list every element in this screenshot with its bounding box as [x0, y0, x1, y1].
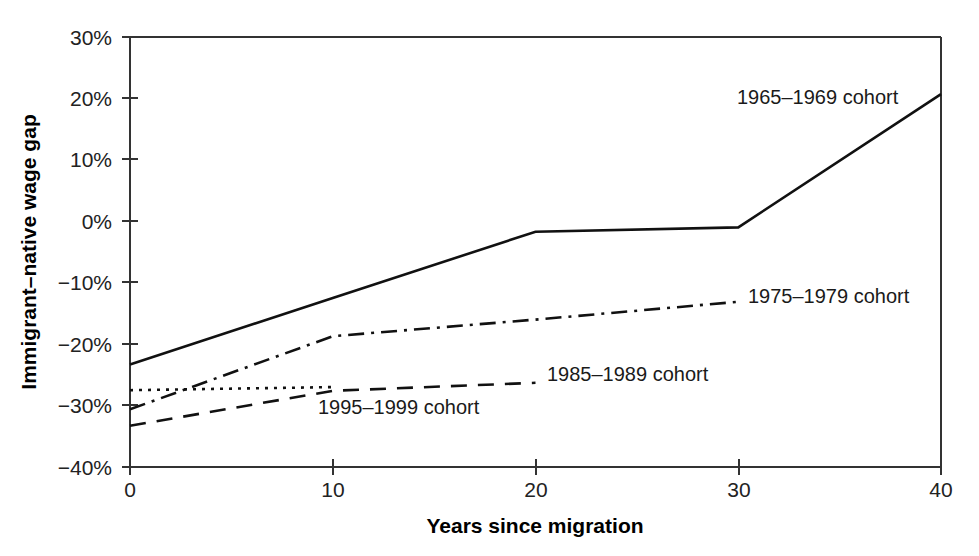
x-tick-label-30: 30 — [727, 478, 750, 501]
y-tick-label-30: 30% — [70, 26, 112, 49]
y-tick-label-10: 10% — [70, 148, 112, 171]
series-group — [130, 94, 941, 426]
series-label-1975-1979: 1975–1979 cohort — [748, 285, 910, 307]
series-label-1985-1989: 1985–1989 cohort — [547, 363, 709, 385]
y-tick-label-20: 20% — [70, 87, 112, 110]
x-axis-tick-labels: 0 10 20 30 40 — [124, 478, 953, 501]
series-label-1965-1969: 1965–1969 cohort — [737, 86, 899, 108]
y-axis-title: Immigrant–native wage gap — [17, 114, 40, 389]
series-line-1995-1999 — [130, 387, 333, 390]
y-axis-tick-labels: 30% 20% 10% 0% −10% −20% −30% −40% — [58, 26, 112, 479]
series-line-1965-1969 — [130, 94, 941, 364]
x-tick-label-20: 20 — [524, 478, 547, 501]
line-chart: 30% 20% 10% 0% −10% −20% −30% −40% 0 10 … — [0, 0, 979, 556]
x-tick-label-0: 0 — [124, 478, 136, 501]
x-axis-title: Years since migration — [426, 514, 643, 537]
y-tick-label-neg30: −30% — [58, 394, 112, 417]
x-tick-label-10: 10 — [321, 478, 344, 501]
series-line-1975-1979 — [130, 302, 738, 410]
series-label-1995-1999: 1995–1999 cohort — [318, 396, 480, 418]
y-tick-label-0: 0% — [82, 210, 112, 233]
y-tick-label-neg20: −20% — [58, 333, 112, 356]
x-tick-label-40: 40 — [929, 478, 952, 501]
chart-container: 30% 20% 10% 0% −10% −20% −30% −40% 0 10 … — [0, 0, 979, 556]
y-tick-label-neg10: −10% — [58, 271, 112, 294]
series-labels: 1965–1969 cohort 1975–1979 cohort 1985–1… — [318, 86, 910, 418]
y-tick-label-neg40: −40% — [58, 456, 112, 479]
